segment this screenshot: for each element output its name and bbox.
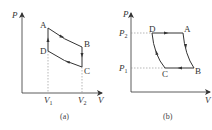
axis-label-v-a: V [98,95,105,105]
tick-label-p1: P1 [118,63,128,74]
point-label-c-b: C [162,69,168,79]
arrow-right-ab-icon [60,35,65,38]
arrow-left-cd-icon [66,61,71,64]
curve-a-to-b-b [183,33,194,68]
diagram-a: P V A B C D V1 V2 (a) [11,10,105,121]
point-label-a-b: A [184,24,191,34]
curve-c-to-d [48,51,82,67]
tick-label-v1: V1 [44,95,53,106]
arrow-up-cd-icon [156,51,159,56]
pv-diagrams: P V A B C D V1 V2 (a) P V P2 [0,0,212,130]
tick-label-v2: V2 [78,95,87,106]
axis-label-p-a: P [11,10,18,20]
arrow-up-da-icon [47,38,50,43]
point-label-d-b: D [149,24,156,34]
point-label-b-b: B [195,66,201,76]
diagram-b: P V P2 P1 D A B C (b) [118,9,212,121]
caption-a: (a) [60,112,69,121]
curve-a-to-b [48,28,82,47]
arrow-down-bc-icon [81,53,84,58]
arrow-left-bc-icon [178,67,183,70]
tick-label-p2: P2 [118,28,128,39]
point-label-c: C [84,66,90,76]
point-label-b: B [84,39,90,49]
point-label-a: A [40,20,47,30]
caption-b: (b) [163,112,173,121]
curve-c-to-d-b [152,33,165,68]
point-label-d: D [40,46,47,56]
axis-label-v-b: V [205,95,212,105]
axis-label-p-b: P [122,9,129,19]
arrow-right-da-icon [164,32,169,35]
